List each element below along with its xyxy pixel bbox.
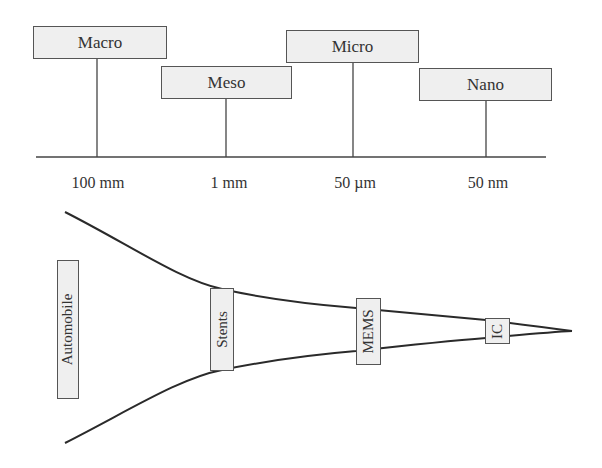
example-label-ic: IC — [489, 324, 506, 339]
dimension-label-meso: 1 mm — [211, 174, 248, 192]
scale-box-macro: Macro — [33, 26, 167, 59]
example-box-mems: MEMS — [356, 298, 381, 365]
example-box-ic: IC — [485, 318, 510, 344]
example-box-automobile: Automobile — [57, 260, 79, 399]
scale-label-nano: Nano — [467, 75, 504, 95]
example-label-stents: Stents — [214, 311, 231, 348]
dimension-label-macro: 100 mm — [72, 174, 125, 192]
example-label-mems: MEMS — [360, 309, 377, 353]
dimension-label-nano: 50 nm — [468, 174, 508, 192]
scale-label-meso: Meso — [208, 73, 246, 93]
scale-box-meso: Meso — [161, 66, 292, 99]
scale-box-nano: Nano — [419, 68, 552, 101]
funnel-bottom-curve — [65, 331, 572, 443]
scale-box-micro: Micro — [286, 30, 419, 63]
funnel-top-curve — [65, 212, 572, 331]
dimension-label-micro: 50 µm — [334, 174, 376, 192]
example-box-stents: Stents — [210, 288, 234, 371]
example-label-automobile: Automobile — [60, 294, 77, 366]
scale-label-macro: Macro — [78, 33, 122, 53]
scale-label-micro: Micro — [332, 37, 374, 57]
